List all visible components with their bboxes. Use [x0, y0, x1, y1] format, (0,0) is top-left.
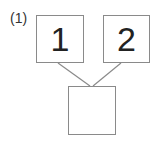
answer-box[interactable]	[68, 86, 116, 135]
number-one: 1	[51, 22, 70, 56]
right-connector-line	[93, 63, 121, 86]
top-left-number-box: 1	[36, 15, 84, 63]
number-two: 2	[117, 22, 136, 56]
left-connector-line	[58, 63, 90, 86]
top-right-number-box: 2	[103, 15, 150, 63]
